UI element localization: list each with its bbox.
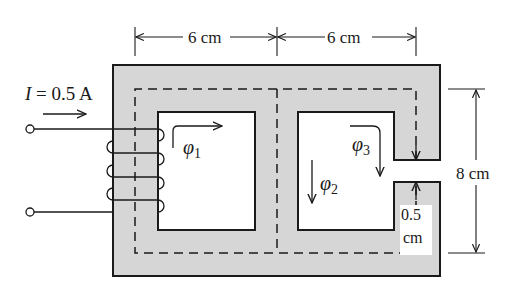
gap-label-unit: cm — [403, 229, 423, 246]
terminal-top — [26, 125, 34, 133]
current-value: = 0.5 A — [31, 83, 93, 104]
top-dimensions — [135, 27, 416, 56]
phi1-label: φ1 — [183, 136, 201, 161]
dim-top-left: 6 cm — [188, 28, 222, 47]
terminal-bottom — [26, 208, 34, 216]
dim-top-right: 6 cm — [327, 28, 361, 47]
phi1-arrow — [173, 126, 222, 148]
phi2-label: φ2 — [320, 172, 338, 197]
phi3-label: φ3 — [352, 133, 370, 158]
magnetic-circuit-diagram: I = 0.5 A φ1 φ2 φ3 0.5 cm 6 cm 6 cm — [0, 0, 518, 291]
gap-label-value: 0.5 — [401, 206, 421, 223]
current-label: I = 0.5 A — [24, 83, 93, 104]
dim-height: 8 cm — [456, 164, 490, 183]
